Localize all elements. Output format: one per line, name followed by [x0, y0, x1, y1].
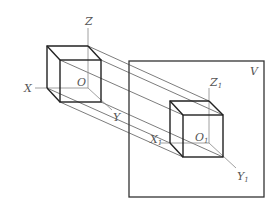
projected-origin-label-o1: O1	[195, 131, 209, 145]
projected-axis-label-y1: Y1	[237, 170, 249, 184]
axis-label-y: Y	[113, 111, 122, 124]
plane-label-v: V	[250, 65, 259, 78]
axis-label-x: X	[23, 82, 33, 95]
object-cube	[47, 46, 101, 102]
axis-label-z: Z	[84, 15, 93, 28]
projected-axes	[160, 88, 236, 168]
origin-label-o: O	[77, 76, 86, 89]
projection-diagram: V Z X Y O Z1	[0, 0, 280, 211]
projected-axis-label-x1: X1	[149, 133, 162, 147]
projected-axis-label-z1: Z1	[209, 76, 222, 90]
